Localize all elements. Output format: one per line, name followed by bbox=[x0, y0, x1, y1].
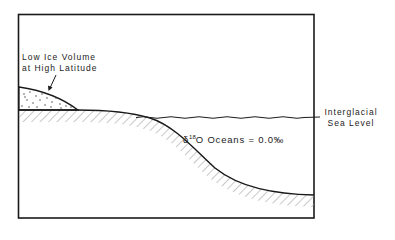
sea-level-label: Interglacial Sea Level bbox=[318, 107, 384, 129]
isotope-value-label: δ18O Oceans = 0.0‰ bbox=[183, 134, 284, 145]
ice-arrow-shaft bbox=[50, 75, 56, 88]
ice-label-line-1: Low Ice Volume bbox=[22, 52, 94, 63]
sea-label-line-1: Interglacial bbox=[318, 107, 384, 118]
seafloor-hatching bbox=[19, 110, 314, 207]
sea-level-line bbox=[136, 117, 320, 119]
ice-label-line-2: at High Latitude bbox=[22, 63, 94, 74]
ice-volume-label: Low Ice Volume at High Latitude bbox=[22, 52, 94, 74]
isotope-text: O Oceans = 0.0‰ bbox=[196, 134, 284, 145]
sea-label-line-2: Sea Level bbox=[318, 118, 384, 129]
seafloor-profile bbox=[19, 110, 314, 195]
isotope-mass: 18 bbox=[189, 134, 196, 140]
